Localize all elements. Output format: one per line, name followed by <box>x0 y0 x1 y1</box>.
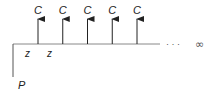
continuation-dots: · · · <box>166 39 180 49</box>
present-value-label: P <box>18 79 26 91</box>
infinity-symbol: ∞ <box>195 38 204 51</box>
interval-label-1: z <box>24 48 30 59</box>
cash-flow-label-1: C <box>34 4 42 16</box>
interval-label-2: z <box>46 48 52 59</box>
perpetuity-diagram: CCCCC z z P · · · ∞ <box>0 0 220 92</box>
cash-flow-label-2: C <box>59 4 67 16</box>
cash-flow-label-5: C <box>133 4 141 16</box>
cash-flow-label-4: C <box>108 4 116 16</box>
cash-flow-label-3: C <box>84 4 92 16</box>
